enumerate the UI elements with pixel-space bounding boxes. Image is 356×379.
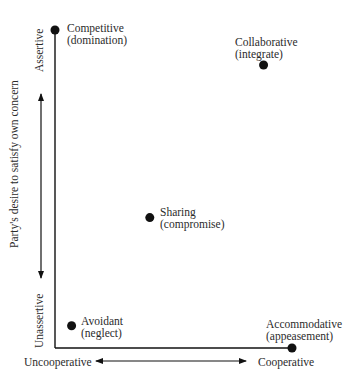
style-alias: (compromise) <box>160 218 225 230</box>
style-label-accommodative: Accommodative (appeasement) <box>266 318 342 342</box>
style-name: Sharing <box>160 206 225 218</box>
style-label-sharing: Sharing (compromise) <box>160 206 225 230</box>
style-label-competitive: Competitive (domination) <box>67 22 127 46</box>
style-point-avoidant <box>67 321 76 330</box>
style-alias: (integrate) <box>235 48 298 60</box>
style-name: Collaborative <box>235 36 298 48</box>
style-name: Avoidant <box>81 315 123 327</box>
style-point-competitive <box>51 26 60 35</box>
y-axis-title: Party's desire to satisfy own concern <box>8 80 20 248</box>
style-alias: (appeasement) <box>266 330 342 342</box>
style-name: Competitive <box>67 22 127 34</box>
x-axis-high-label: Cooperative <box>258 356 314 368</box>
style-point-collaborative <box>259 60 268 69</box>
style-point-sharing <box>145 213 154 222</box>
y-axis-low-label: Unassertive <box>33 294 45 348</box>
x-axis-low-label: Uncooperative <box>24 356 92 368</box>
y-axis-high-label: Assertive <box>33 29 45 72</box>
style-name: Accommodative <box>266 318 342 330</box>
style-alias: (domination) <box>67 34 127 46</box>
style-alias: (neglect) <box>81 327 123 339</box>
style-label-avoidant: Avoidant (neglect) <box>81 315 123 339</box>
style-label-collaborative: Collaborative (integrate) <box>235 36 298 60</box>
style-point-accommodative <box>288 344 297 353</box>
